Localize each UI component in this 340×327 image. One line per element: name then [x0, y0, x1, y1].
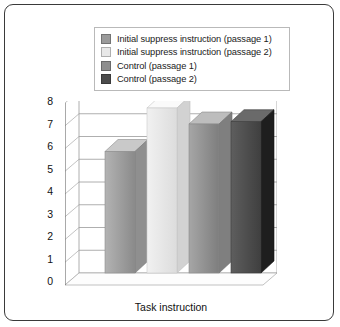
legend-item-label: Initial suppress instruction (passage 1) — [117, 34, 272, 44]
legend-swatch-icon — [101, 61, 111, 71]
bar-series-0 — [105, 140, 148, 274]
y-axis-tick-label: 3 — [31, 208, 53, 220]
chart-plot-area — [65, 101, 277, 287]
y-axis-tick-label: 7 — [31, 118, 53, 130]
chart-frame: Initial suppress instruction (passage 1)… — [4, 4, 334, 321]
legend-swatch-icon — [101, 47, 111, 57]
legend-item-label: Control (passage 1) — [117, 61, 197, 71]
x-axis-title: Task instruction — [65, 301, 277, 313]
y-axis-tick-label: 6 — [31, 140, 53, 152]
y-axis-tick-label: 0 — [31, 275, 53, 287]
bar-chart-svg — [65, 101, 277, 287]
y-axis-tick-label: 2 — [31, 230, 53, 242]
legend-swatch-icon — [101, 34, 111, 44]
y-axis-tick-label: 5 — [31, 163, 53, 175]
legend-item-label: Initial suppress instruction (passage 2) — [117, 47, 272, 57]
legend-item-label: Control (passage 2) — [117, 74, 197, 84]
legend-item: Control (passage 2) — [101, 73, 284, 87]
y-axis-tick-label: 4 — [31, 185, 53, 197]
y-axis-tick-label: 1 — [31, 253, 53, 265]
legend-item: Initial suppress instruction (passage 2) — [101, 46, 284, 60]
legend-swatch-icon — [101, 74, 111, 84]
bar-series-2 — [189, 112, 232, 273]
legend-item: Control (passage 1) — [101, 59, 284, 73]
bar-series-1 — [147, 101, 190, 273]
y-axis-tick-labels: 8 7 6 5 4 3 2 1 0 — [31, 101, 53, 287]
y-axis-tick-label: 8 — [31, 95, 53, 107]
bar-series-3 — [231, 110, 274, 273]
legend-item: Initial suppress instruction (passage 1) — [101, 32, 284, 46]
chart-legend: Initial suppress instruction (passage 1)… — [94, 27, 290, 91]
